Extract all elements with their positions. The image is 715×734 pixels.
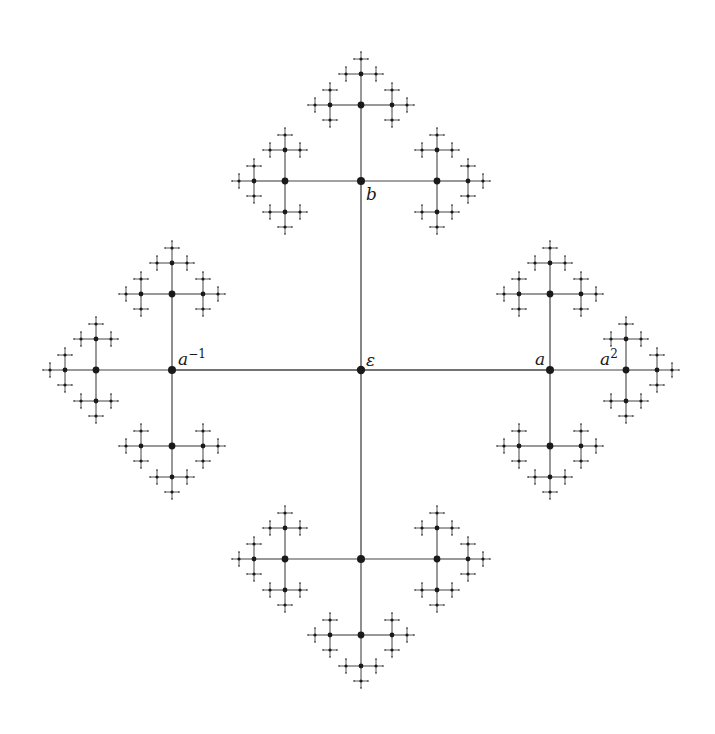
graph-node [252, 194, 255, 197]
graph-node [602, 293, 604, 295]
graph-node [474, 165, 476, 167]
graph-node [313, 633, 316, 636]
graph-node [299, 142, 301, 144]
graph-node [594, 292, 597, 295]
graph-node [216, 444, 219, 447]
graph-node [405, 633, 408, 636]
label-b: b [366, 184, 377, 204]
graph-node [632, 323, 634, 325]
graph-node [384, 89, 386, 91]
graph-node [587, 460, 589, 462]
graph-node [336, 619, 338, 621]
graph-node [671, 362, 673, 364]
graph-node [186, 255, 188, 257]
graph-node [246, 573, 248, 575]
graph-node [632, 415, 634, 417]
graph-node [201, 429, 204, 432]
graph-node [414, 527, 416, 529]
graph-node [124, 292, 127, 295]
graph-node [579, 292, 584, 297]
graph-node [133, 278, 135, 280]
graph-node [260, 573, 262, 575]
graph-node [64, 347, 66, 349]
graph-node [95, 422, 97, 424]
graph-node [164, 491, 166, 493]
graph-node [618, 415, 620, 417]
graph-node [421, 582, 423, 584]
graph-node [602, 445, 604, 447]
graph-node [140, 271, 142, 273]
graph-node [624, 322, 627, 325]
graph-node [147, 278, 149, 280]
graph-node [178, 247, 180, 249]
graph-node [405, 103, 408, 106]
graph-node [322, 119, 324, 121]
graph-node [79, 399, 82, 402]
graph-node [384, 619, 386, 621]
graph-node [277, 604, 279, 606]
graph-node [149, 476, 151, 478]
graph-node [329, 612, 331, 614]
graph-node [260, 165, 262, 167]
graph-node [517, 429, 520, 432]
graph-node [375, 658, 377, 660]
graph-node [466, 542, 469, 545]
graph-node [283, 225, 286, 228]
graph-node [663, 354, 665, 356]
graph-node [511, 278, 513, 280]
graph-node [496, 445, 498, 447]
graph-node [139, 429, 142, 432]
graph-node [467, 202, 469, 204]
graph-node [291, 512, 293, 514]
graph-node [458, 211, 460, 213]
graph-node [291, 134, 293, 136]
graph-node [359, 679, 362, 682]
graph-node [435, 588, 440, 593]
graph-node [328, 633, 333, 638]
cayley-graph: ε a a2 a−1 b [0, 0, 715, 734]
graph-node [139, 277, 142, 280]
graph-node [109, 337, 112, 340]
graph-node [314, 111, 316, 113]
graph-node [125, 438, 127, 440]
graph-node [277, 226, 279, 228]
graph-node [678, 369, 680, 371]
graph-node [329, 126, 331, 128]
graph-node [384, 119, 386, 121]
graph-node [429, 604, 431, 606]
graph-node [595, 286, 597, 288]
graph-node [460, 195, 462, 197]
graph-node [170, 475, 175, 480]
graph-node [482, 187, 484, 189]
graph-node [406, 641, 408, 643]
graph-node [170, 261, 175, 266]
graph-node [193, 262, 195, 264]
graph-node [406, 627, 408, 629]
graph-node [458, 149, 460, 151]
graph-node [195, 460, 197, 462]
graph-node [429, 512, 431, 514]
graph-node [216, 292, 219, 295]
graph-node [262, 149, 264, 151]
graph-node [202, 467, 204, 469]
graph-node [547, 443, 554, 450]
graph-node [460, 573, 462, 575]
graph-node [587, 308, 589, 310]
graph-node [329, 82, 331, 84]
graph-node [421, 534, 423, 536]
graph-node [655, 383, 658, 386]
graph-node [474, 573, 476, 575]
graph-node [186, 269, 188, 271]
graph-node [384, 649, 386, 651]
graph-node [435, 526, 440, 531]
graph-node [63, 353, 66, 356]
graph-node [443, 226, 445, 228]
graph-node [140, 423, 142, 425]
graph-node [656, 347, 658, 349]
graph-node [579, 307, 582, 310]
graph-node [420, 588, 423, 591]
graph-node [345, 66, 347, 68]
graph-node [88, 323, 90, 325]
graph-node [357, 366, 365, 374]
graph-node [57, 354, 59, 356]
